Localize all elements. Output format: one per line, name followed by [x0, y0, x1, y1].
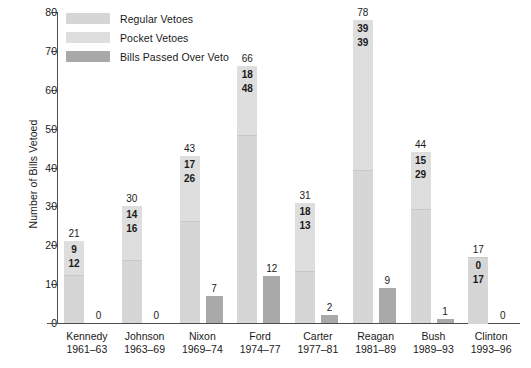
value-label-override-clinton: 0: [500, 310, 506, 321]
value-label-total-reagan: 78: [357, 7, 368, 18]
value-label-total-johnson: 30: [126, 193, 137, 204]
value-label-pocket-carter: 18: [295, 206, 315, 217]
x-label-name-johnson: Johnson: [116, 330, 174, 343]
x-label-johnson: Johnson1963–69: [116, 330, 174, 356]
stacked-bar-bush[interactable]: 1529: [411, 152, 431, 323]
value-label-regular-kennedy: 12: [64, 258, 84, 269]
value-label-total-carter: 31: [299, 190, 310, 201]
value-label-override-johnson: 0: [153, 310, 159, 321]
value-label-regular-nixon: 26: [180, 173, 200, 184]
override-bar-fill-reagan: [379, 288, 396, 323]
value-label-pocket-johnson: 14: [122, 209, 142, 220]
value-labels-bush: 1529: [411, 152, 431, 323]
y-tick-label-30: 30: [11, 200, 57, 212]
bar-group-clinton: 017170: [462, 12, 520, 323]
override-bar-fill-bush: [437, 319, 454, 323]
x-label-name-ford: Ford: [231, 330, 289, 343]
x-axis-line: [47, 323, 520, 324]
value-label-total-nixon: 43: [184, 143, 195, 154]
x-label-years-reagan: 1981–89: [347, 343, 405, 356]
veto-bar-chart: Regular Vetoes Pocket Vetoes Bills Passe…: [0, 0, 531, 368]
bar-group-reagan: 3939789: [347, 12, 405, 323]
x-label-bush: Bush1989–93: [405, 330, 463, 356]
x-label-nixon: Nixon1969–74: [174, 330, 232, 356]
override-bar-fill-carter: [321, 315, 338, 323]
stacked-bar-kennedy[interactable]: 912: [64, 241, 84, 323]
x-label-reagan: Reagan1981–89: [347, 330, 405, 356]
value-labels-clinton: 017: [468, 257, 488, 323]
plot-area: 9122101416300172643718486612181331239397…: [58, 12, 520, 323]
value-label-total-ford: 66: [242, 53, 253, 64]
override-bar-ford[interactable]: [263, 276, 280, 323]
value-label-regular-carter: 13: [295, 220, 315, 231]
x-label-years-carter: 1977–81: [289, 343, 347, 356]
stacked-bar-johnson[interactable]: 1416: [122, 206, 142, 323]
value-label-total-kennedy: 21: [68, 228, 79, 239]
stacked-bar-nixon[interactable]: 1726: [180, 156, 200, 323]
value-label-pocket-ford: 18: [237, 69, 257, 80]
value-label-regular-ford: 48: [237, 83, 257, 94]
x-label-name-nixon: Nixon: [174, 330, 232, 343]
bar-group-kennedy: 912210: [58, 12, 116, 323]
stacked-bar-carter[interactable]: 1813: [295, 203, 315, 324]
x-label-kennedy: Kennedy1961–63: [58, 330, 116, 356]
bar-group-nixon: 1726437: [174, 12, 232, 323]
x-label-name-reagan: Reagan: [347, 330, 405, 343]
value-label-override-carter: 2: [327, 302, 333, 313]
y-tick-label-50: 50: [11, 123, 57, 135]
value-labels-nixon: 1726: [180, 156, 200, 323]
value-labels-ford: 1848: [237, 66, 257, 323]
value-label-pocket-bush: 15: [411, 155, 431, 166]
bar-group-carter: 1813312: [289, 12, 347, 323]
value-label-override-bush: 1: [442, 306, 448, 317]
x-label-name-carter: Carter: [289, 330, 347, 343]
value-labels-kennedy: 912: [64, 241, 84, 323]
value-label-regular-bush: 29: [411, 169, 431, 180]
x-label-years-kennedy: 1961–63: [58, 343, 116, 356]
x-label-years-clinton: 1993–96: [462, 343, 520, 356]
override-bar-nixon[interactable]: [206, 296, 223, 323]
y-tick-label-20: 20: [11, 239, 57, 251]
y-axis-title: Number of Bills Vetoed: [27, 84, 39, 264]
override-bar-reagan[interactable]: [379, 288, 396, 323]
y-tick-label-60: 60: [11, 84, 57, 96]
value-label-pocket-nixon: 17: [180, 159, 200, 170]
stacked-bar-ford[interactable]: 1848: [237, 66, 257, 323]
x-label-years-bush: 1989–93: [405, 343, 463, 356]
bar-group-johnson: 1416300: [116, 12, 174, 323]
x-label-name-bush: Bush: [405, 330, 463, 343]
value-label-override-nixon: 7: [211, 283, 217, 294]
stacked-bar-reagan[interactable]: 3939: [353, 20, 373, 323]
value-label-override-reagan: 9: [384, 275, 390, 286]
x-label-name-clinton: Clinton: [462, 330, 520, 343]
bar-group-ford: 18486612: [231, 12, 289, 323]
value-label-pocket-reagan: 39: [353, 23, 373, 34]
value-labels-carter: 1813: [295, 203, 315, 324]
value-label-pocket-clinton: 0: [468, 260, 488, 271]
value-labels-reagan: 3939: [353, 20, 373, 323]
value-label-total-clinton: 17: [473, 244, 484, 255]
value-label-pocket-kennedy: 9: [64, 244, 84, 255]
value-label-regular-johnson: 16: [122, 223, 142, 234]
value-label-total-bush: 44: [415, 139, 426, 150]
override-bar-carter[interactable]: [321, 315, 338, 323]
y-tick-label-70: 70: [11, 45, 57, 57]
x-label-ford: Ford1974–77: [231, 330, 289, 356]
x-label-years-nixon: 1969–74: [174, 343, 232, 356]
y-tick-label-10: 10: [11, 278, 57, 290]
stacked-bar-clinton[interactable]: 017: [468, 257, 488, 323]
override-bar-fill-nixon: [206, 296, 223, 323]
value-label-override-kennedy: 0: [96, 310, 102, 321]
x-label-years-johnson: 1963–69: [116, 343, 174, 356]
x-label-name-kennedy: Kennedy: [58, 330, 116, 343]
value-label-regular-reagan: 39: [353, 37, 373, 48]
x-label-clinton: Clinton1993–96: [462, 330, 520, 356]
override-bar-fill-ford: [263, 276, 280, 323]
bar-group-bush: 1529441: [405, 12, 463, 323]
x-label-years-ford: 1974–77: [231, 343, 289, 356]
override-bar-bush[interactable]: [437, 319, 454, 323]
y-tick-label-80: 80: [11, 6, 57, 18]
value-label-regular-clinton: 17: [468, 274, 488, 285]
y-tick-label-40: 40: [11, 162, 57, 174]
value-label-override-ford: 12: [266, 263, 277, 274]
